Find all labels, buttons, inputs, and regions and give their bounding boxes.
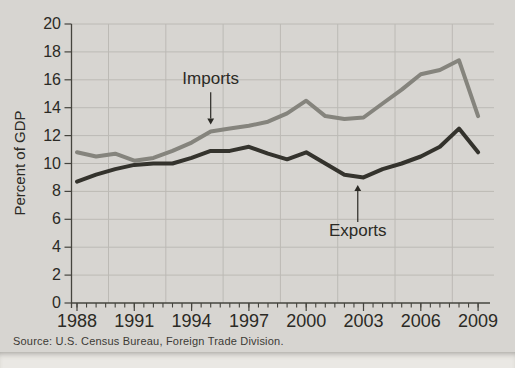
- imports-line: [77, 60, 478, 160]
- trade-chart-figure: Percent of GDP 0246810121416182019881991…: [0, 0, 515, 352]
- chart-canvas: 0246810121416182019881991199419972000200…: [0, 0, 515, 334]
- y-tick-label: 14: [43, 99, 61, 116]
- y-tick-label: 0: [52, 294, 61, 311]
- page-background: [0, 352, 515, 368]
- x-tick-label: 1988: [57, 311, 97, 331]
- y-tick-label: 18: [43, 43, 61, 60]
- y-tick-label: 2: [52, 266, 61, 283]
- x-tick-label: 2006: [401, 311, 441, 331]
- x-tick-label: 1994: [172, 311, 212, 331]
- y-tick-label: 20: [43, 15, 61, 32]
- annotation-exports-arrowhead: [354, 185, 361, 191]
- x-tick-label: 2003: [343, 311, 383, 331]
- y-tick-label: 12: [43, 127, 61, 144]
- x-tick-label: 1991: [114, 311, 154, 331]
- annotation-exports-label: Exports: [329, 221, 387, 240]
- y-tick-label: 6: [52, 210, 61, 227]
- x-tick-label: 1997: [229, 311, 269, 331]
- y-tick-label: 10: [43, 155, 61, 172]
- y-tick-label: 8: [52, 182, 61, 199]
- exports-line: [77, 129, 478, 182]
- annotation-imports-arrowhead: [207, 118, 214, 124]
- x-tick-label: 2009: [458, 311, 498, 331]
- x-tick-label: 2000: [286, 311, 326, 331]
- annotation-imports-label: Imports: [182, 69, 239, 88]
- screenshot-root: Percent of GDP 0246810121416182019881991…: [0, 0, 515, 368]
- y-tick-label: 4: [52, 238, 61, 255]
- y-tick-label: 16: [43, 71, 61, 88]
- source-note: Source: U.S. Census Bureau, Foreign Trad…: [13, 335, 284, 347]
